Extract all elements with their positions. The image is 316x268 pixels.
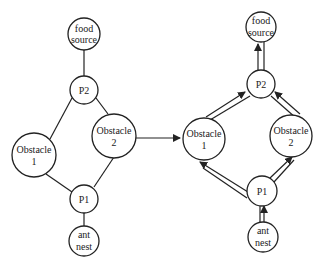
svg-text:Obstacle: Obstacle xyxy=(97,125,133,136)
right-node-p2: P2 xyxy=(247,70,275,98)
right-node-obstacle-2: Obstacle 2 xyxy=(270,115,312,157)
svg-text:ant: ant xyxy=(78,229,90,240)
left-node-p2: P2 xyxy=(70,76,98,104)
svg-text:1: 1 xyxy=(202,140,207,151)
svg-text:P2: P2 xyxy=(79,85,90,96)
left-node-obstacle-2: Obstacle 2 xyxy=(92,114,136,158)
svg-text:ant: ant xyxy=(257,225,269,236)
left-node-food-source: food source xyxy=(68,18,100,50)
svg-text:2: 2 xyxy=(112,137,117,148)
svg-text:food: food xyxy=(252,15,270,26)
svg-text:nest: nest xyxy=(255,237,271,248)
left-node-ant-nest: ant nest xyxy=(69,226,99,256)
svg-text:source: source xyxy=(248,27,275,38)
svg-text:source: source xyxy=(71,34,98,45)
ant-colony-diagram: food source P2 Obstacle 1 Obstacle 2 P1 … xyxy=(0,0,316,268)
left-node-obstacle-1: Obstacle 1 xyxy=(12,133,56,177)
svg-text:1: 1 xyxy=(32,156,37,167)
svg-text:Obstacle: Obstacle xyxy=(187,128,223,139)
svg-text:Obstacle: Obstacle xyxy=(17,144,53,155)
svg-text:P1: P1 xyxy=(257,186,268,197)
svg-text:food: food xyxy=(75,23,93,34)
right-node-ant-nest: ant nest xyxy=(248,222,278,252)
svg-text:2: 2 xyxy=(289,137,294,148)
left-node-p1: P1 xyxy=(70,185,98,213)
svg-text:P2: P2 xyxy=(256,79,267,90)
svg-text:Obstacle: Obstacle xyxy=(274,125,310,136)
right-node-food-source: food source xyxy=(246,12,276,42)
right-node-obstacle-1: Obstacle 1 xyxy=(183,118,225,160)
svg-text:P1: P1 xyxy=(79,194,90,205)
right-node-p1: P1 xyxy=(247,176,277,206)
svg-text:nest: nest xyxy=(76,241,92,252)
